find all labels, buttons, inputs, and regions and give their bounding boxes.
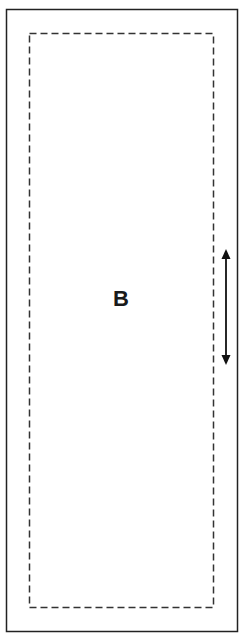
diagram-canvas bbox=[0, 0, 248, 641]
region-label: B bbox=[108, 286, 134, 312]
inner-dashed-border bbox=[30, 34, 214, 608]
double-arrow-icon bbox=[222, 249, 231, 365]
outer-border bbox=[7, 10, 238, 632]
